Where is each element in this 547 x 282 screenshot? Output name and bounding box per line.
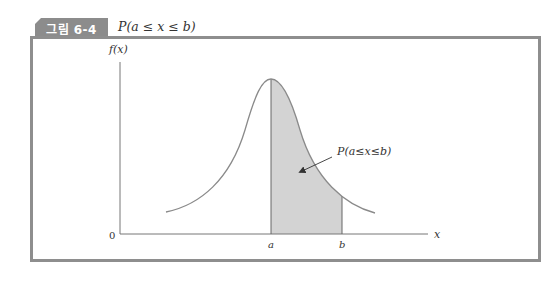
tick-label-a: a — [268, 239, 274, 250]
origin-label: 0 — [109, 230, 115, 241]
normal-distribution-chart: f(x) 0 x a b P(a≤x≤b) — [0, 0, 547, 282]
tick-label-b: b — [339, 239, 345, 250]
x-axis-label: x — [434, 228, 441, 241]
y-axis-label: f(x) — [108, 43, 128, 56]
probability-annotation-label: P(a≤x≤b) — [336, 145, 391, 158]
